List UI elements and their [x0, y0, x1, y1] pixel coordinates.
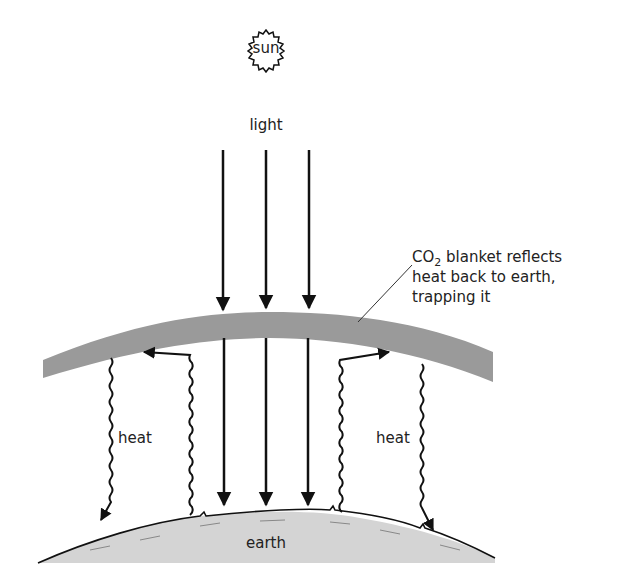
light-label: light [249, 116, 282, 134]
sun-label: sun [253, 39, 280, 57]
earth-label: earth [246, 534, 286, 552]
caption-leader-line [358, 265, 412, 322]
earth: earth [38, 506, 495, 563]
blanket-caption: CO2 blanket reflects heat back to earth,… [412, 248, 562, 306]
heat-label-right: heat [376, 429, 410, 447]
light-arrows-upper [223, 150, 309, 310]
greenhouse-diagram: sun light CO2 blanket reflects heat back… [0, 0, 618, 582]
svg-text:heat back to earth,: heat back to earth, [412, 268, 556, 286]
svg-text:CO2 blanket reflects: CO2 blanket reflects [412, 248, 562, 269]
heat-label-left: heat [118, 429, 152, 447]
sun-icon: sun [248, 30, 284, 72]
svg-text:trapping it: trapping it [412, 288, 490, 306]
light-arrows-lower [224, 338, 308, 505]
